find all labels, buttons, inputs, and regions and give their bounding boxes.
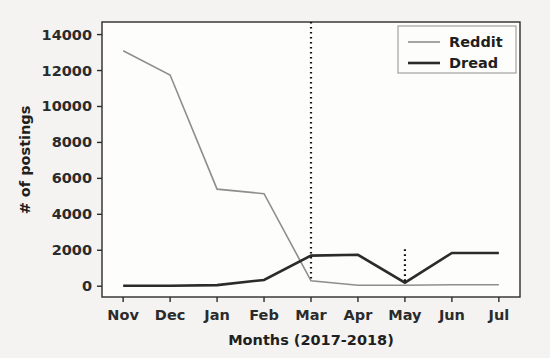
y-tick-label: 0 (82, 278, 92, 294)
x-tick-label: Nov (107, 307, 139, 323)
x-tick-label: May (388, 307, 422, 323)
x-tick-label: Jun (438, 307, 465, 323)
y-tick-label: 10000 (42, 98, 92, 114)
line-chart: 02000400060008000100001200014000 NovDecJ… (0, 0, 550, 358)
legend-label: Dread (449, 55, 498, 71)
y-tick-label: 14000 (42, 27, 92, 43)
y-axis-label: # of postings (17, 106, 33, 215)
x-tick-label: Dec (155, 307, 185, 323)
chart-legend: RedditDread (398, 26, 516, 73)
y-tick-label: 2000 (52, 242, 92, 258)
y-tick-label: 4000 (52, 206, 92, 222)
y-tick-label: 8000 (52, 134, 92, 150)
legend-label: Reddit (449, 34, 503, 50)
x-tick-label: Apr (344, 307, 374, 323)
x-tick-label: Jan (203, 307, 230, 323)
x-tick-label: Mar (295, 307, 327, 323)
chart-figure: 02000400060008000100001200014000 NovDecJ… (0, 0, 550, 358)
y-tick-label: 6000 (52, 170, 92, 186)
y-tick-label: 12000 (42, 63, 92, 79)
x-tick-label: Feb (249, 307, 279, 323)
x-axis-label: Months (2017-2018) (228, 332, 394, 348)
x-tick-label: Jul (488, 307, 510, 323)
